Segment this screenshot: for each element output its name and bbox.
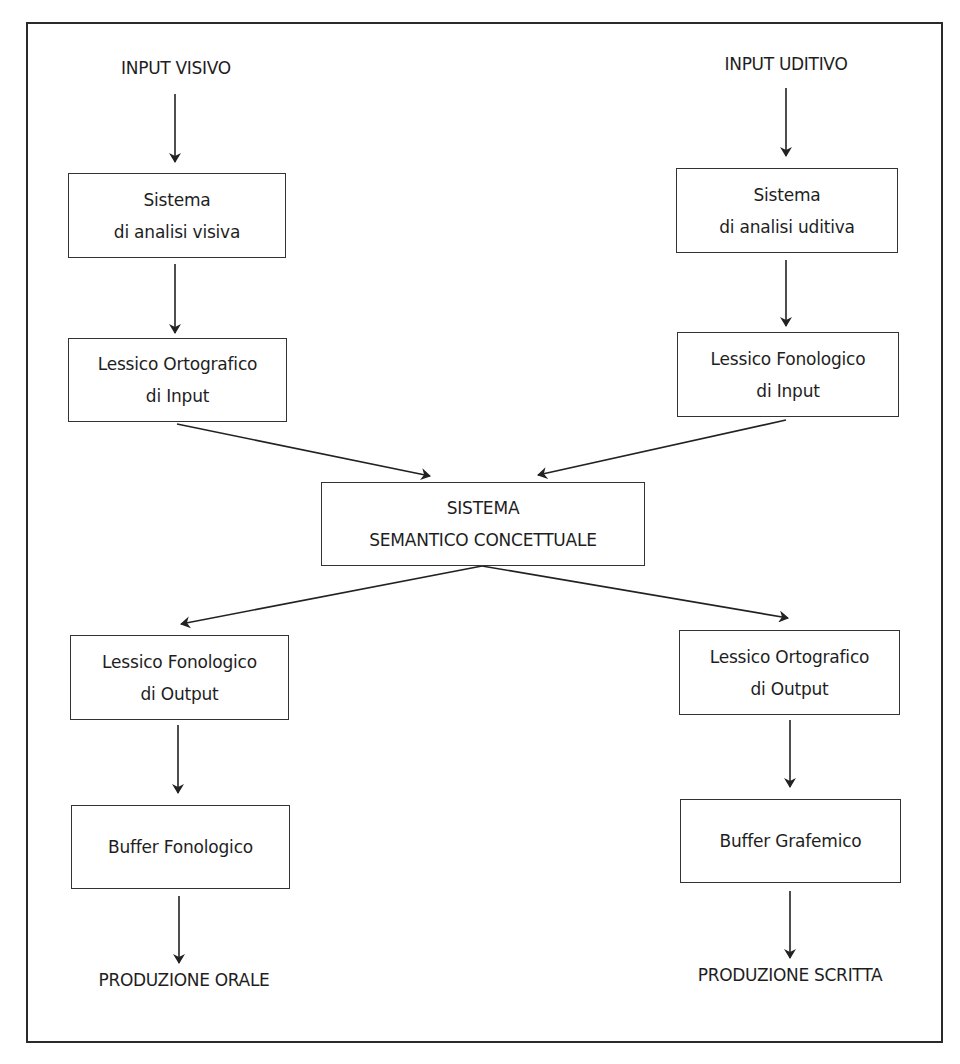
auditory-analysis-line1: Sistema (753, 179, 820, 211)
orthographic-output-line2: di Output (750, 673, 828, 705)
auditory-analysis-line2: di analisi uditiva (719, 211, 855, 243)
phonological-output-lexicon-box: Lessico Fonologico di Output (70, 635, 289, 720)
visual-analysis-line1: Sistema (143, 184, 210, 216)
orthographic-input-line2: di Input (146, 380, 209, 412)
phonological-buffer-label: Buffer Fonologico (108, 831, 253, 863)
phonological-output-line1: Lessico Fonologico (102, 646, 257, 678)
orthographic-output-lexicon-box: Lessico Ortografico di Output (679, 630, 900, 715)
visual-analysis-box: Sistema di analisi visiva (68, 173, 286, 258)
visual-analysis-line2: di analisi visiva (114, 216, 240, 248)
semantic-line2: SEMANTICO CONCETTUALE (369, 524, 597, 556)
input-auditory-label: INPUT UDITIVO (725, 54, 848, 74)
phonological-input-line1: Lessico Fonologico (711, 343, 866, 375)
oral-production-label: PRODUZIONE ORALE (98, 970, 269, 990)
phonological-input-line2: di Input (756, 375, 819, 407)
semantic-line1: SISTEMA (447, 492, 520, 524)
phonological-buffer-box: Buffer Fonologico (71, 805, 290, 889)
semantic-conceptual-system-box: SISTEMA SEMANTICO CONCETTUALE (321, 482, 645, 566)
graphemic-buffer-label: Buffer Grafemico (719, 825, 861, 857)
orthographic-output-line1: Lessico Ortografico (710, 641, 870, 673)
written-production-label: PRODUZIONE SCRITTA (698, 965, 882, 985)
orthographic-input-line1: Lessico Ortografico (98, 348, 258, 380)
orthographic-input-lexicon-box: Lessico Ortografico di Input (68, 338, 287, 422)
phonological-input-lexicon-box: Lessico Fonologico di Input (677, 332, 899, 417)
input-visual-label: INPUT VISIVO (121, 58, 231, 78)
graphemic-buffer-box: Buffer Grafemico (680, 799, 901, 883)
phonological-output-line2: di Output (140, 678, 218, 710)
auditory-analysis-box: Sistema di analisi uditiva (676, 168, 898, 253)
